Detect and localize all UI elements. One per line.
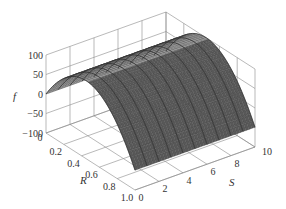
z-tick-label: −50 — [27, 108, 43, 119]
z-axis-label: f — [13, 90, 18, 102]
y-tick-label: 4 — [187, 175, 192, 186]
z-tick-label: 100 — [28, 50, 43, 61]
y-tick-label: 8 — [235, 158, 240, 169]
surface-mesh — [46, 33, 255, 170]
surface-plot: −100−5005010000.20.40.60.81.00246810 f R… — [0, 0, 286, 209]
y-tick-label: 0 — [139, 192, 144, 203]
z-tick-label: 0 — [38, 89, 43, 100]
x-tick-label: 0.2 — [50, 146, 63, 157]
x-tick-label: 0 — [38, 132, 43, 143]
y-tick-label: 10 — [262, 146, 272, 157]
y-tick-label: 6 — [211, 166, 216, 177]
y-axis-label: S — [229, 176, 235, 188]
y-tick-label: 2 — [163, 183, 168, 194]
x-tick-label: 0.6 — [85, 169, 98, 180]
z-tick-label: 50 — [33, 69, 43, 80]
x-tick-label: 0.4 — [67, 158, 80, 169]
x-tick-label: 1.0 — [121, 192, 134, 203]
x-tick-label: 0.8 — [103, 181, 116, 192]
x-axis-label: R — [79, 174, 87, 186]
